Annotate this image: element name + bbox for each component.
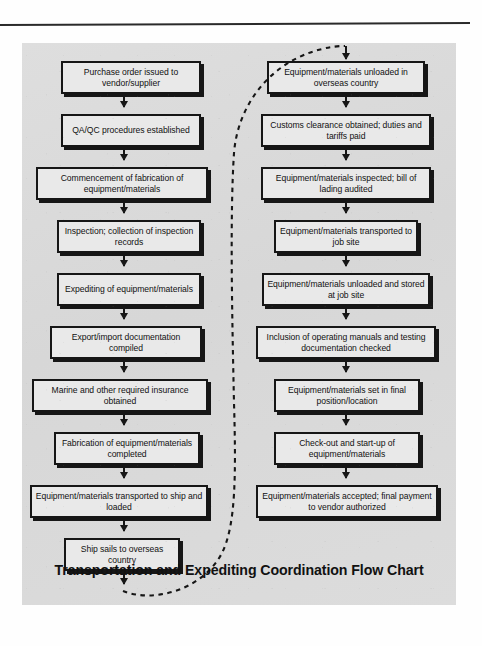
flow-node-r5-label: Equipment/materials unloaded and stored … — [267, 279, 425, 300]
flow-node-l7-label: Marine and other required insurance obta… — [37, 385, 203, 406]
flow-node-r3-label: Equipment/materials inspected; bill of l… — [266, 173, 426, 194]
flow-node-r4[interactable]: Equipment/materials transported to job s… — [274, 220, 418, 253]
flow-arrow-l8-l9 — [123, 465, 125, 478]
flow-node-r7[interactable]: Equipment/materials set in final positio… — [274, 379, 420, 412]
flow-node-r8[interactable]: Check-out and start-up of equipment/mate… — [274, 432, 420, 465]
flow-node-r1[interactable]: Equipment/materials unloaded in overseas… — [267, 61, 425, 94]
flow-arrow-r7-r8 — [345, 412, 347, 425]
flow-node-l9[interactable]: Equipment/materials transported to ship … — [30, 485, 208, 518]
flow-node-l7[interactable]: Marine and other required insurance obta… — [32, 379, 208, 412]
flow-arrow-r5-r6 — [345, 306, 347, 319]
flow-node-r2[interactable]: Customs clearance obtained; duties and t… — [261, 114, 431, 147]
flow-node-l1-label: Purchase order issued to vendor/supplier — [66, 67, 196, 88]
flow-arrow-r2-r3 — [345, 147, 347, 160]
flow-node-r9[interactable]: Equipment/materials accepted; final paym… — [256, 485, 438, 518]
flow-node-r6-label: Inclusion of operating manuals and testi… — [261, 332, 431, 353]
flow-arrow-r6-r7 — [345, 359, 347, 372]
flow-arrow-r8-r9 — [345, 465, 347, 478]
flow-node-r8-label: Check-out and start-up of equipment/mate… — [279, 438, 415, 459]
flow-node-l5-label: Expediting of equipment/materials — [62, 284, 196, 295]
flow-node-l8[interactable]: Fabrication of equipment/materials compl… — [54, 432, 200, 465]
flow-node-l8-label: Fabrication of equipment/materials compl… — [59, 438, 195, 459]
flow-arrow-r1-r2 — [345, 94, 347, 107]
flow-node-l9-label: Equipment/materials transported to ship … — [35, 491, 203, 512]
flow-arrow-l7-l8 — [123, 412, 125, 425]
flow-arrow-l2-l3 — [123, 147, 125, 160]
flow-node-l4-label: Inspection; collection of inspection rec… — [62, 226, 196, 247]
flow-arrow-r4-r5 — [345, 253, 347, 266]
flow-arrow-l4-l5 — [123, 253, 125, 266]
flow-arrow-l6-l7 — [123, 359, 125, 372]
flow-node-r3[interactable]: Equipment/materials inspected; bill of l… — [261, 167, 431, 200]
page-canvas: Purchase order issued to vendor/supplier… — [0, 0, 482, 646]
flow-node-r7-label: Equipment/materials set in final positio… — [279, 385, 415, 406]
flow-node-l4[interactable]: Inspection; collection of inspection rec… — [57, 220, 201, 253]
flow-arrow-l1-l2 — [123, 94, 125, 107]
chart-title: Transportation and Expediting Coordinati… — [22, 562, 456, 578]
flow-node-r5[interactable]: Equipment/materials unloaded and stored … — [262, 273, 430, 306]
flow-node-l3-label: Commencement of fabrication of equipment… — [41, 173, 203, 194]
flow-arrow-l9-l10 — [123, 518, 125, 531]
flow-node-l3[interactable]: Commencement of fabrication of equipment… — [36, 167, 208, 200]
flow-node-l6-label: Export/import documentation compiled — [55, 332, 197, 353]
flow-node-l5[interactable]: Expediting of equipment/materials — [57, 273, 201, 306]
flow-chart-panel: Purchase order issued to vendor/supplier… — [22, 43, 456, 605]
top-horizontal-rule — [0, 22, 470, 26]
flow-arrow-r1-inflow — [345, 46, 347, 59]
flow-arrow-l5-l6 — [123, 306, 125, 319]
flow-node-l1[interactable]: Purchase order issued to vendor/supplier — [61, 61, 201, 94]
flow-node-r9-label: Equipment/materials accepted; final paym… — [261, 491, 433, 512]
flow-arrow-l3-l4 — [123, 200, 125, 213]
flow-node-l2[interactable]: QA/QC procedures established — [61, 114, 201, 147]
flow-node-l6[interactable]: Export/import documentation compiled — [50, 326, 202, 359]
flow-node-r4-label: Equipment/materials transported to job s… — [279, 226, 413, 247]
flow-arrow-r3-r4 — [345, 200, 347, 213]
flow-node-r1-label: Equipment/materials unloaded in overseas… — [272, 67, 420, 88]
flow-node-l2-label: QA/QC procedures established — [66, 125, 196, 136]
flow-node-r6[interactable]: Inclusion of operating manuals and testi… — [256, 326, 436, 359]
flow-node-r2-label: Customs clearance obtained; duties and t… — [266, 120, 426, 141]
